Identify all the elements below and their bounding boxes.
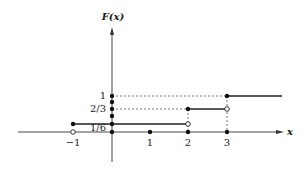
axis-dot [110, 122, 114, 126]
closed-point [186, 107, 190, 111]
x-tick-2: 2 [185, 137, 191, 148]
x-axis-label: x [286, 126, 294, 137]
open-point [186, 122, 191, 127]
axis-dot [110, 114, 114, 118]
closed-point [225, 130, 229, 134]
y-axis-label: F(x) [101, 11, 125, 22]
axis-dot [110, 107, 114, 111]
x-tick-1: 1 [147, 137, 153, 148]
closed-point [148, 130, 152, 134]
x-axis-arrow-icon [276, 130, 284, 134]
y-axis-arrow-icon [110, 27, 114, 35]
dashed-guides [112, 96, 227, 132]
y-tick-1: 1 [100, 90, 106, 101]
closed-point [186, 130, 190, 134]
closed-point [225, 94, 229, 98]
open-point [71, 130, 76, 135]
x-tick-3: 3 [224, 137, 230, 148]
cdf-chart: F(x) x −1 1 2 3 1 2/3 1/6 [0, 0, 304, 169]
y-tick-1-6: 1/6 [90, 122, 106, 133]
x-tick-neg1: −1 [66, 137, 81, 148]
axis-dot [110, 94, 114, 98]
y-tick-2-3: 2/3 [90, 103, 106, 114]
axis-dot [110, 100, 114, 104]
open-point [225, 107, 230, 112]
closed-point [71, 122, 75, 126]
axis-dot [110, 130, 114, 134]
